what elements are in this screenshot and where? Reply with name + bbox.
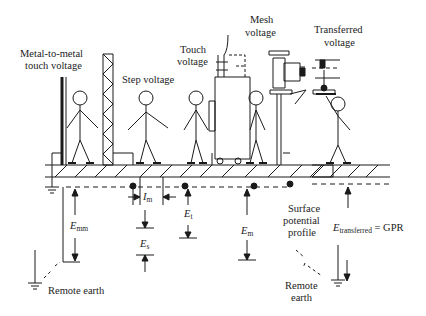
remote-earth-left-symbol: [28, 187, 80, 289]
label-touch-voltage-line1: Touch: [180, 44, 206, 56]
person-mesh: [246, 91, 267, 163]
person-step: [128, 91, 168, 163]
label-surface-profile-line2: potential: [283, 215, 320, 227]
label-e-mm: Emm: [70, 220, 88, 235]
label-metal-to-metal-line1: Metal-to-metal: [20, 48, 83, 60]
label-surface-profile-line1: Surface: [288, 203, 320, 215]
label-step-voltage: Step voltage: [122, 74, 174, 86]
surface-potential-line: [66, 184, 390, 187]
label-transferred-voltage-line2: voltage: [324, 37, 355, 49]
person-touch: [184, 91, 208, 163]
label-mesh-voltage-line1: Mesh: [250, 14, 273, 26]
grid-nodes: [130, 181, 293, 189]
label-mesh-voltage-line2: voltage: [245, 27, 276, 39]
ground-symbol-left: [45, 165, 59, 193]
person-metal-touch: [67, 91, 98, 163]
label-e-t: Et: [184, 208, 193, 223]
etransferred-arrow: [345, 187, 351, 208]
label-metal-to-metal-line2: touch voltage: [25, 60, 82, 72]
label-remote-earth-right-line2: earth: [291, 292, 312, 304]
label-i-m: Im: [143, 191, 152, 206]
label-e-s: Es: [140, 238, 149, 253]
label-remote-earth-right-line1: Remote: [285, 280, 318, 292]
label-e-transferred: Etransferred = GPR: [333, 222, 404, 237]
person-transferred: [326, 96, 351, 163]
label-remote-earth-left: Remote earth: [48, 285, 104, 297]
ground-surface-band: [45, 165, 333, 177]
label-e-m: Em: [241, 225, 253, 240]
label-surface-profile-line3: profile: [288, 227, 316, 239]
remote-ground-band: [312, 165, 390, 177]
label-transferred-voltage-line1: Transferred: [314, 24, 363, 36]
label-touch-voltage-line2: voltage: [177, 56, 208, 68]
pole-structure: [269, 51, 306, 165]
equipment-cabinet: [209, 35, 250, 165]
transferred-equipment: [312, 60, 340, 94]
